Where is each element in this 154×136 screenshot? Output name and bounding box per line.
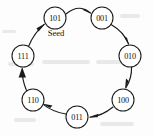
cycle-diagram-canvas: 101 001 010 100 011 110 111 Seed [0, 0, 154, 136]
node-011[interactable]: 011 [66, 106, 88, 128]
node-101-label: 101 [49, 14, 61, 23]
node-110[interactable]: 110 [22, 89, 44, 111]
edge-010-to-100 [125, 67, 132, 89]
edge-101-to-001 [66, 8, 92, 14]
arrowhead-010 [124, 36, 130, 45]
node-001-label: 001 [96, 14, 108, 23]
node-100[interactable]: 100 [112, 89, 134, 111]
node-010-label: 010 [124, 52, 136, 61]
edge-001-to-010 [111, 25, 129, 46]
edge-011-to-110 [42, 104, 66, 115]
node-001[interactable]: 001 [91, 7, 113, 29]
node-110-label: 110 [27, 96, 38, 105]
arrowhead-101 [37, 23, 46, 31]
seed-label: Seed [48, 28, 65, 38]
node-101[interactable]: 101 [44, 7, 66, 29]
node-010[interactable]: 010 [119, 45, 141, 67]
edge-111-to-101 [29, 23, 46, 46]
node-100-label: 100 [117, 96, 129, 105]
node-011-label: 011 [71, 113, 82, 122]
node-111[interactable]: 111 [12, 45, 34, 67]
state-cycle-diagram: 101 001 010 100 011 110 111 Seed [0, 0, 154, 136]
arrowhead-111 [19, 67, 26, 77]
node-111-label: 111 [17, 52, 28, 61]
edge-110-to-111 [19, 67, 27, 90]
edge-100-to-011 [88, 107, 113, 117]
